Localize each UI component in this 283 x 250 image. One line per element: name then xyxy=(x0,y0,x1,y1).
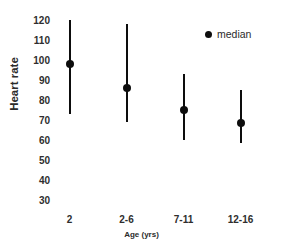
median-marker-icon xyxy=(237,119,245,127)
x-axis-tick-label: 12-16 xyxy=(206,214,276,225)
y-axis-tick-label: 70 xyxy=(18,115,50,126)
y-axis-tick-label: 80 xyxy=(18,95,50,106)
error-bar-range-line xyxy=(126,24,128,122)
error-bar-range-line xyxy=(240,90,242,143)
median-marker-icon xyxy=(66,60,74,68)
y-axis-tick-label: 50 xyxy=(18,155,50,166)
median-marker-icon xyxy=(180,106,188,114)
y-axis-tick-label: 60 xyxy=(18,135,50,146)
y-axis-tick-label: 90 xyxy=(18,75,50,86)
legend-median-marker-icon xyxy=(205,31,212,38)
legend-median-label: median xyxy=(217,28,251,40)
heart-rate-range-chart: Heart rate 12011010090807060504030 22-67… xyxy=(0,0,283,250)
legend: median xyxy=(205,28,251,40)
y-axis-tick-label: 30 xyxy=(18,195,50,206)
y-axis-tick-label: 120 xyxy=(18,15,50,26)
y-axis-tick-labels: 12011010090807060504030 xyxy=(18,0,50,250)
y-axis-tick-label: 40 xyxy=(18,175,50,186)
median-marker-icon xyxy=(123,84,131,92)
y-axis-tick-label: 110 xyxy=(18,35,50,46)
y-axis-tick-label: 100 xyxy=(18,55,50,66)
x-axis-title: Age (yrs) xyxy=(0,230,283,239)
